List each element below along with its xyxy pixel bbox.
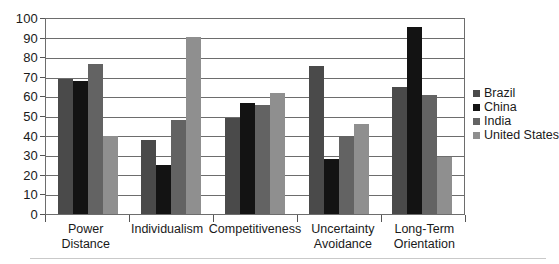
legend-label: United States [484, 128, 559, 142]
y-axis-tick-label: 80 [0, 51, 38, 64]
legend-label: Brazil [484, 86, 515, 100]
legend-swatch-icon [473, 104, 480, 111]
legend-item: China [473, 100, 553, 114]
x-axis-labels: Power DistanceIndividualismCompetitivene… [45, 222, 465, 260]
bar [186, 37, 201, 214]
y-axis-tick-label: 70 [0, 71, 38, 84]
bar [437, 157, 452, 214]
x-axis-label: Power Distance [45, 222, 126, 260]
y-axis-tick-label: 60 [0, 90, 38, 103]
y-axis-tick-label: 10 [0, 188, 38, 201]
x-axis-label: Individualism [126, 222, 207, 260]
y-axis: 1009080706050403020100 [0, 11, 38, 223]
legend-label: India [484, 114, 511, 128]
bar-group [380, 19, 464, 214]
bar [339, 136, 354, 214]
bar [309, 66, 324, 214]
legend-swatch-icon [473, 118, 480, 125]
bar-group [130, 19, 214, 214]
bar [156, 165, 171, 214]
bar-group [297, 19, 381, 214]
bar [407, 27, 422, 214]
x-axis-tick-mark [465, 215, 466, 222]
y-axis-tick-label: 50 [0, 110, 38, 123]
x-axis-label: Competitiveness [208, 222, 302, 260]
y-axis-tick-label: 30 [0, 149, 38, 162]
y-axis-tick-label: 100 [0, 12, 38, 25]
legend-swatch-icon [473, 132, 480, 139]
x-axis-tick-mark [381, 215, 382, 222]
bar [141, 140, 156, 214]
bar-group [213, 19, 297, 214]
legend: BrazilChinaIndiaUnited States [473, 86, 553, 142]
bar [58, 79, 73, 214]
x-axis-tick-mark [45, 215, 46, 222]
bar [73, 81, 88, 214]
bar [240, 103, 255, 214]
plot-area [45, 18, 465, 215]
y-axis-tick-label: 20 [0, 169, 38, 182]
y-axis-tick-label: 90 [0, 32, 38, 45]
bar [225, 118, 240, 214]
legend-item: United States [473, 128, 553, 142]
bars-layer [46, 19, 464, 214]
x-axis-tick-mark [297, 215, 298, 222]
bottom-divider [30, 258, 546, 259]
x-axis-tick-mark [213, 215, 214, 222]
bar [354, 124, 369, 214]
legend-label: China [484, 100, 517, 114]
bar [255, 105, 270, 214]
bar [103, 136, 118, 214]
bar [324, 159, 339, 214]
bar [88, 64, 103, 214]
bar [171, 120, 186, 214]
bar [270, 93, 285, 214]
legend-item: Brazil [473, 86, 553, 100]
x-axis-label: Long-Term Orientation [384, 222, 465, 260]
legend-item: India [473, 114, 553, 128]
x-axis-label: Uncertainty Avoidance [302, 222, 383, 260]
bar [422, 95, 437, 214]
legend-swatch-icon [473, 90, 480, 97]
y-axis-tick-label: 0 [0, 208, 38, 221]
y-axis-tick-label: 40 [0, 130, 38, 143]
bar [392, 87, 407, 214]
x-axis-tick-marks [45, 215, 465, 222]
bar-group [46, 19, 130, 214]
x-axis-tick-mark [129, 215, 130, 222]
